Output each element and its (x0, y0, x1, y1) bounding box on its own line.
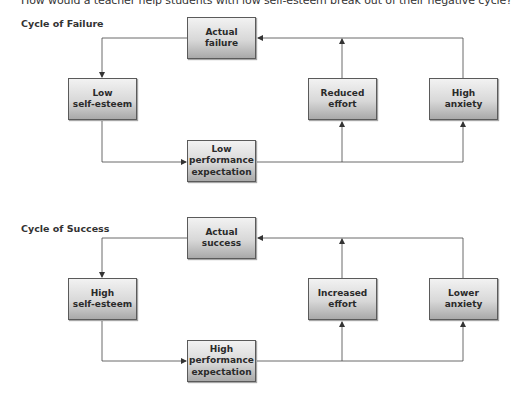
node-label: performance (189, 155, 254, 167)
node-label: effort (318, 299, 368, 311)
node-high-anxiety: Highanxiety (429, 78, 498, 120)
node-low-self-esteem: Lowself-esteem (68, 78, 137, 120)
cycle-failure-title: Cycle of Failure (21, 18, 104, 29)
node-label: Actual (202, 227, 241, 239)
node-label: High (189, 344, 254, 356)
node-label: self-esteem (73, 99, 132, 111)
node-label: Low (189, 144, 254, 156)
node-label: failure (205, 38, 238, 50)
node-reduced-effort: Reducedeffort (308, 78, 377, 120)
node-label: success (202, 238, 241, 250)
node-actual-success: Actualsuccess (187, 217, 256, 259)
connector-lines (0, 0, 518, 402)
node-label: Reduced (321, 88, 365, 100)
node-label: Low (73, 88, 132, 100)
node-high-performance-expectation: Highperformanceexpectation (187, 340, 256, 382)
node-label: Actual (205, 27, 238, 39)
node-low-performance-expectation: Lowperformanceexpectation (187, 140, 256, 182)
node-actual-failure: Actualfailure (187, 17, 256, 59)
node-lower-anxiety: Loweranxiety (429, 278, 498, 320)
node-label: Increased (318, 288, 368, 300)
node-high-self-esteem: Highself-esteem (68, 278, 137, 320)
node-increased-effort: Increasedeffort (308, 278, 377, 320)
cycle-success-title: Cycle of Success (21, 223, 109, 234)
node-label: performance (189, 355, 254, 367)
node-label: self-esteem (73, 299, 132, 311)
node-label: anxiety (445, 299, 483, 311)
node-label: effort (321, 99, 365, 111)
node-label: anxiety (445, 99, 483, 111)
node-label: High (73, 288, 132, 300)
node-label: expectation (189, 367, 254, 379)
node-label: Lower (445, 288, 483, 300)
node-label: expectation (189, 167, 254, 179)
node-label: High (445, 88, 483, 100)
